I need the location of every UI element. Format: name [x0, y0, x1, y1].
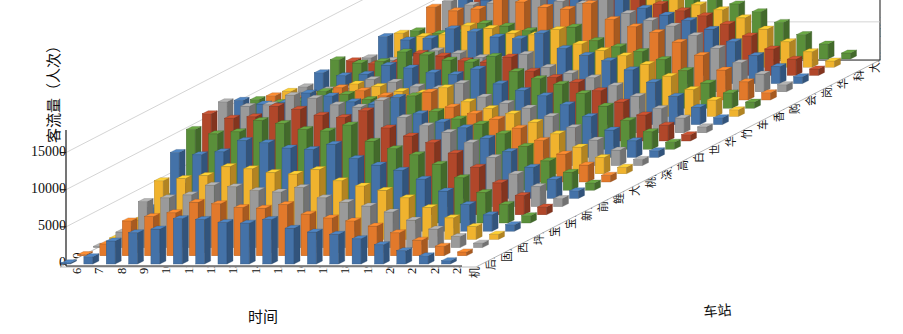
- chart-3d-column: 客流量（人次） 时间 车站 050001000015000 6:007:008:…: [0, 0, 903, 334]
- plot-area: [0, 0, 903, 334]
